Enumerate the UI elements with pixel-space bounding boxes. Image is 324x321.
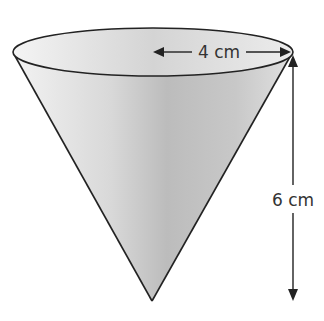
arrowhead-down-icon bbox=[288, 289, 298, 301]
radius-label: 4 cm bbox=[198, 42, 240, 62]
height-arrow bbox=[288, 55, 298, 301]
cone-diagram: 4 cm 6 cm bbox=[0, 0, 324, 321]
height-label: 6 cm bbox=[272, 190, 314, 210]
cone-body bbox=[15, 55, 291, 301]
